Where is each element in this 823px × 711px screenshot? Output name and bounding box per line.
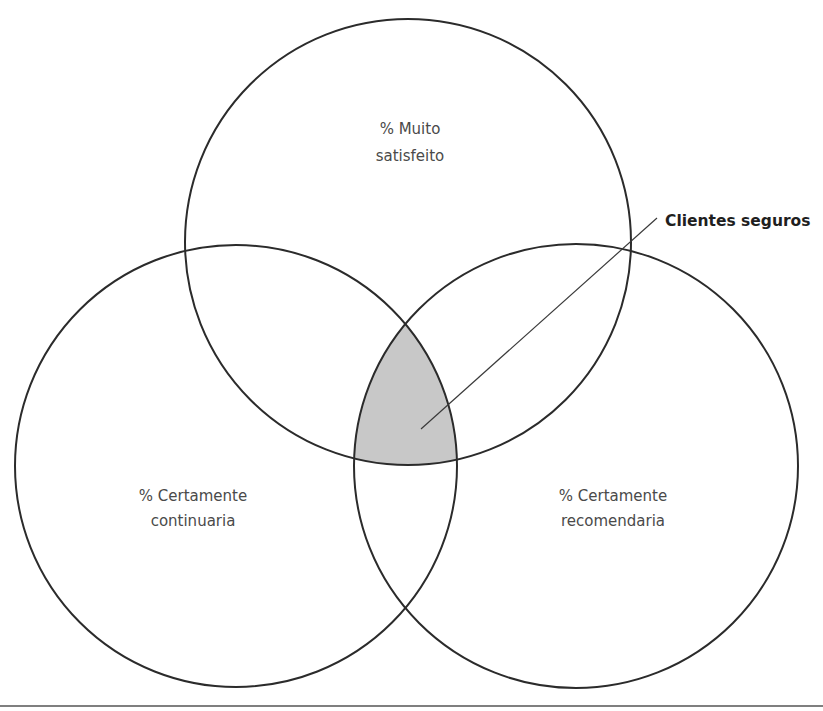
label-left-line1: % Certamente	[139, 487, 247, 505]
triple-intersection-shading	[354, 244, 798, 688]
label-top-line1: % Muito	[380, 120, 441, 138]
circle-certamente-continuaria	[15, 245, 457, 687]
callout-label: Clientes seguros	[665, 212, 810, 230]
label-left-line2: continuaria	[151, 512, 236, 530]
callout-line	[421, 218, 657, 429]
label-right-line2: recomendaria	[561, 512, 665, 530]
label-top-line2: satisfeito	[376, 147, 445, 165]
circle-certamente-recomendaria	[354, 244, 798, 688]
label-right-line1: % Certamente	[559, 487, 667, 505]
venn-diagram: % Muito satisfeito % Certamente continua…	[0, 0, 823, 711]
triple-intersection-group	[354, 244, 798, 688]
